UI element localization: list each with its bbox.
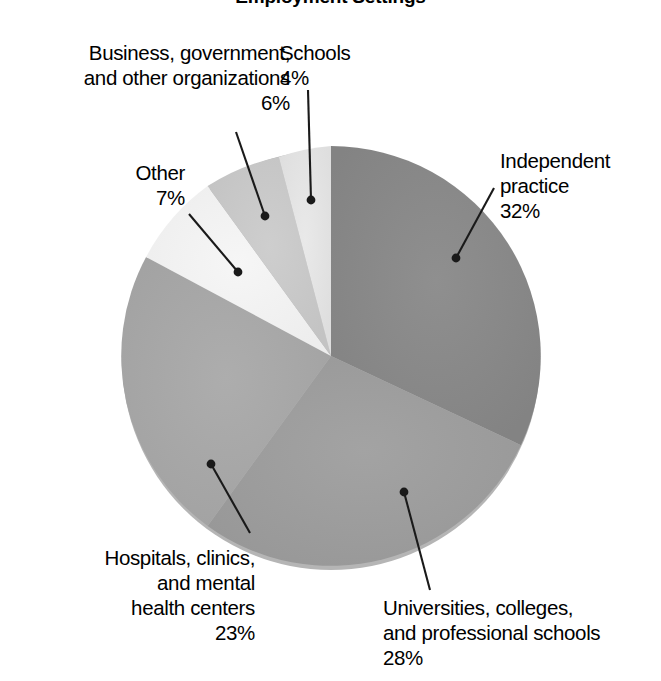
pie-label-independent-practice-percent: 32% xyxy=(500,198,660,223)
pie-label-universities-percent: 28% xyxy=(383,645,661,670)
pie-label-universities: Universities, colleges, and professional… xyxy=(383,595,661,670)
pie-label-hospitals-line2: and mental xyxy=(157,571,255,594)
pie-label-business-government: Business, government, and other organiza… xyxy=(18,40,290,115)
pie-label-hospitals-percent: 23% xyxy=(0,620,255,645)
pie-label-schools: Schools 4% xyxy=(280,40,430,90)
pie-label-independent-practice-line1: Independent xyxy=(500,149,610,172)
pie-label-hospitals-line1: Hospitals, clinics, xyxy=(104,546,255,569)
pie-label-other-line1: Other xyxy=(135,161,185,184)
pie-label-universities-line1: Universities, colleges, xyxy=(383,596,573,619)
leader-dot-independent-practice xyxy=(452,254,461,263)
leader-dot-other xyxy=(234,268,243,277)
pie-label-independent-practice: Independent practice 32% xyxy=(500,148,660,223)
pie-label-universities-line2: and professional schools xyxy=(383,621,600,644)
leader-dot-schools xyxy=(307,196,316,205)
leader-dot-universities xyxy=(400,488,409,497)
leader-dot-hospitals xyxy=(207,460,216,469)
pie-label-hospitals-line3: health centers xyxy=(131,596,255,619)
pie-label-independent-practice-line2: practice xyxy=(500,174,569,197)
pie-chart-figure: Employment Settings xyxy=(0,0,661,681)
pie-label-other-percent: 7% xyxy=(20,185,185,210)
leader-dot-business-government xyxy=(261,212,270,221)
pie-label-hospitals: Hospitals, clinics, and mental health ce… xyxy=(0,545,255,645)
pie-label-business-government-percent: 6% xyxy=(18,90,290,115)
pie-label-schools-percent: 4% xyxy=(280,65,430,90)
pie-label-business-government-line2: and other organizations xyxy=(84,66,290,89)
pie-label-schools-line1: Schools xyxy=(280,41,350,64)
pie-label-other: Other 7% xyxy=(20,160,185,210)
pie-label-business-government-line1: Business, government, xyxy=(89,41,290,64)
